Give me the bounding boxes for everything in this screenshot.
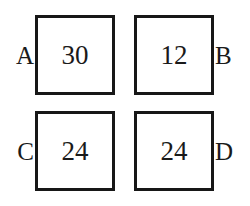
cell-top-left: A 30 — [35, 15, 115, 95]
box-value-a: 30 — [62, 42, 89, 69]
cell-bottom-left: C 24 — [35, 111, 115, 191]
box-d: 24 — [134, 111, 214, 191]
box-label-b: B — [215, 43, 232, 68]
box-value-d: 24 — [161, 138, 188, 165]
box-b: 12 — [134, 15, 214, 95]
box-c: 24 — [35, 111, 115, 191]
box-a: 30 — [35, 15, 115, 95]
cell-top-right: 12 B — [134, 15, 214, 95]
box-value-c: 24 — [62, 138, 89, 165]
box-label-d: D — [215, 139, 233, 164]
four-box-diagram: A 30 12 B C 24 24 D — [0, 0, 250, 206]
box-label-c: C — [17, 139, 34, 164]
box-value-b: 12 — [161, 42, 188, 69]
box-label-a: A — [16, 43, 34, 68]
cell-bottom-right: 24 D — [134, 111, 214, 191]
